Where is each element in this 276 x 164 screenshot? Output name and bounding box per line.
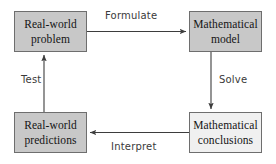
edge-label-test: Test bbox=[21, 74, 42, 85]
edge-label-solve: Solve bbox=[219, 74, 247, 85]
node-label-line2: conclusions bbox=[198, 133, 253, 148]
node-mathematical-conclusions: Mathematical conclusions bbox=[189, 112, 262, 153]
node-label-line2: problem bbox=[31, 32, 70, 47]
node-mathematical-model: Mathematical model bbox=[189, 11, 262, 52]
node-label-line2: predictions bbox=[24, 133, 76, 148]
node-label-line1: Mathematical bbox=[193, 118, 257, 133]
edge-label-interpret: Interpret bbox=[111, 141, 157, 152]
node-real-world-predictions: Real-world predictions bbox=[14, 112, 87, 153]
modeling-cycle-diagram: Real-world problem Mathematical model Re… bbox=[0, 0, 276, 164]
node-label-line2: model bbox=[211, 32, 240, 47]
edge-label-formulate: Formulate bbox=[105, 10, 157, 21]
node-real-world-problem: Real-world problem bbox=[14, 11, 87, 52]
node-label-line1: Mathematical bbox=[193, 17, 257, 32]
node-label-line1: Real-world bbox=[24, 17, 77, 32]
node-label-line1: Real-world bbox=[24, 118, 77, 133]
